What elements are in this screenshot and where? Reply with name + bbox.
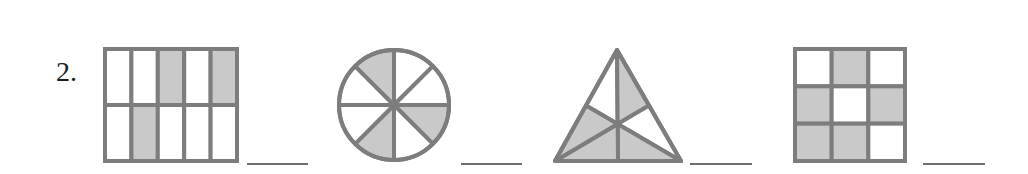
shaded-cell [868, 86, 905, 123]
shaded-cell [832, 124, 869, 161]
fraction-figures [0, 0, 1028, 174]
unshaded-cell [868, 49, 905, 86]
shaded-cell [795, 124, 832, 161]
shaded-cell [158, 49, 184, 105]
unshaded-cell [184, 105, 210, 161]
unshaded-cell [184, 49, 210, 105]
shaded-cell [795, 86, 832, 123]
unshaded-cell [868, 124, 905, 161]
shaded-cell [832, 49, 869, 86]
shaded-cell [211, 49, 237, 105]
unshaded-cell [131, 49, 157, 105]
shaded-cell [131, 105, 157, 161]
unshaded-cell [105, 49, 131, 105]
unshaded-cell [158, 105, 184, 161]
unshaded-cell [832, 86, 869, 123]
unshaded-cell [211, 105, 237, 161]
unshaded-cell [795, 49, 832, 86]
worksheet-problem: 2. [0, 0, 1028, 174]
unshaded-cell [105, 105, 131, 161]
